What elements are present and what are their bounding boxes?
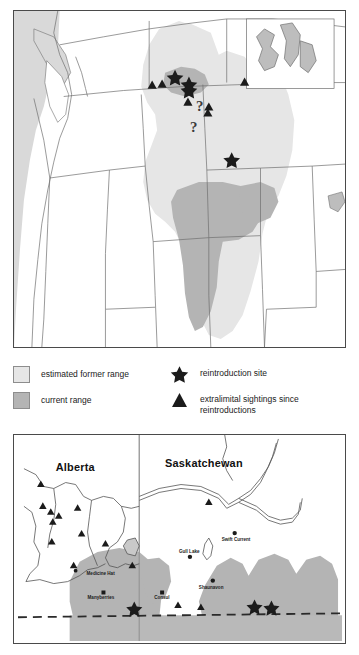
square-light-swatch	[13, 366, 30, 383]
city-label-swift-current: Swift Current	[222, 537, 251, 542]
city-label-consul: Consul	[154, 595, 169, 600]
legend-label-former-range: estimated former range	[41, 366, 129, 380]
legend-label-current-range: current range	[41, 392, 92, 406]
star-icon	[170, 365, 189, 383]
legend-item-former-range: estimated former range	[13, 366, 129, 383]
square-gray-swatch	[13, 392, 30, 409]
city-label-gull-lake: Gull Lake	[179, 549, 200, 554]
legend-label-extralimital-sightings: extralimital sightings since reintroduct…	[200, 391, 299, 415]
province-label-alberta: Alberta	[56, 461, 96, 473]
legend-item-extralimital-sightings: extralimital sightings since reintroduct…	[170, 391, 299, 415]
legend: estimated former range current range rei…	[13, 364, 346, 424]
province-label-saskatchewan: Saskatchewan	[165, 457, 243, 469]
city-label-shaunavon: Shaunavon	[199, 585, 224, 590]
swift-fox-range-figure: ? ? estimated former range current range…	[0, 0, 359, 655]
legend-item-reintroduction-site: reintroduction site	[170, 365, 267, 383]
uncertainty-annotation: ?	[190, 119, 197, 135]
triangle-icon	[170, 391, 189, 409]
great-lakes-inset	[247, 19, 334, 89]
prairie-detail-map: Alberta Saskatchewan	[13, 434, 346, 644]
legend-label-reintroduction-site: reintroduction site	[200, 365, 267, 379]
border-strip	[70, 615, 342, 641]
north-america-range-map: ? ?	[13, 10, 346, 348]
legend-item-current-range: current range	[13, 392, 92, 409]
city-label-manyberries: Manyberries	[88, 595, 115, 600]
uncertainty-annotation: ?	[196, 98, 203, 114]
city-label-medicine-hat: Medicine Hat	[87, 571, 116, 576]
